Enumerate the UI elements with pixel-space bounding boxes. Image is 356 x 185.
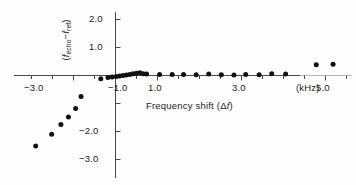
x-tick-label-3: 3.0	[232, 82, 246, 93]
data-point	[73, 106, 78, 111]
data-point	[33, 144, 38, 149]
data-point	[269, 71, 274, 76]
data-point	[170, 72, 175, 77]
y-axis-label-text: (fecho−fref)	[60, 19, 71, 60]
data-point	[219, 72, 224, 77]
data-point	[206, 72, 211, 77]
y-tick-label-minus2: −2.0	[79, 125, 99, 136]
y-axis-label: (fecho−fref)	[58, 10, 72, 70]
data-point	[231, 72, 236, 77]
x-tick-label-1: 1.0	[148, 82, 162, 93]
x-axis-title: Frequency shift (Δf)	[146, 100, 233, 111]
y-tick-label-minus3: −3.0	[79, 153, 99, 164]
data-point	[105, 75, 110, 80]
data-point	[283, 72, 288, 77]
x-tick-label-minus1: −1.0	[108, 82, 128, 93]
data-point	[331, 62, 336, 67]
data-point	[79, 94, 84, 99]
data-point	[49, 132, 54, 137]
y-tick-label-2: 2.0	[89, 13, 103, 24]
data-point	[66, 114, 71, 119]
data-point	[181, 72, 186, 77]
data-point	[58, 122, 63, 127]
data-point	[98, 76, 103, 81]
data-point	[157, 72, 162, 77]
x-tick-label-minus3: −3.0	[24, 82, 44, 93]
data-point	[314, 62, 319, 67]
data-point	[257, 72, 262, 77]
x-axis-unit-label: (kHz)	[296, 82, 320, 93]
y-tick-label-1: 1.0	[89, 41, 103, 52]
figure-panel: (fecho−fref) 2.0 1.0 −2.0 −3.0 −3.0 −1.0…	[0, 0, 356, 185]
data-point	[194, 72, 199, 77]
data-point	[243, 72, 248, 77]
data-point	[144, 72, 149, 77]
